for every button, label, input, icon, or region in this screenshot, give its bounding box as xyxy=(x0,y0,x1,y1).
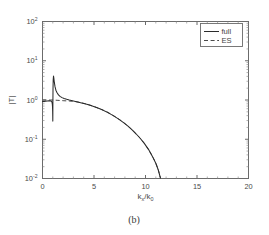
svg-text:kx/k0: kx/k0 xyxy=(138,192,154,202)
y-tick-label: 101 xyxy=(26,55,37,65)
x-tick-label: 15 xyxy=(193,182,201,191)
transmission-vs-wavenumber-chart: 10-210-1100101102 05101520 |T| kx/k0 ful… xyxy=(0,0,269,235)
x-axis-label: kx/k0 xyxy=(138,192,154,202)
y-axis-label-text: |T| xyxy=(7,95,16,104)
x-tick-labels: 05101520 xyxy=(40,182,252,191)
x-tick-label: 10 xyxy=(141,182,149,191)
x-tick-label: 0 xyxy=(40,182,44,191)
legend[interactable]: full ES xyxy=(201,24,243,47)
y-tick-labels: 10-210-1100101102 xyxy=(25,16,38,183)
y-tick-label: 100 xyxy=(26,95,37,105)
figure-caption: (b) xyxy=(128,214,140,226)
x-tick-label: 20 xyxy=(244,182,252,191)
x-tick-label: 5 xyxy=(92,182,96,191)
y-tick-label: 10-2 xyxy=(25,173,38,183)
legend-label-full: full xyxy=(222,27,232,36)
y-tick-label: 10-1 xyxy=(25,134,38,144)
y-axis-label: |T| xyxy=(7,95,16,104)
series-full-line xyxy=(43,76,161,178)
series-es-line xyxy=(43,100,161,178)
y-tick-label: 102 xyxy=(26,16,37,26)
legend-label-es: ES xyxy=(222,36,232,45)
x-axis-label-sub2: 0 xyxy=(150,196,153,202)
figure-panel-b: 10-210-1100101102 05101520 |T| kx/k0 ful… xyxy=(0,0,269,235)
